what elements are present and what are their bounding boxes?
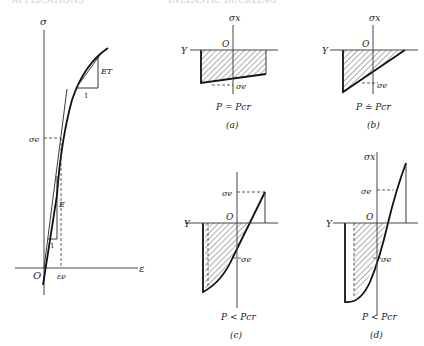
tangent-modulus-label: ET [100,67,113,76]
origin-label-b: O [362,39,370,49]
condition-d: P < Pcr [361,312,397,322]
caption-c: (c) [230,330,243,340]
condition-c: P < Pcr [220,312,256,322]
tangent-slope-unit: 1 [84,92,88,100]
y-label-d: Y [326,219,333,229]
condition-a: P = Pcr [215,102,251,112]
tangent-modulus-line [76,55,100,88]
sigma-x-label-a: σx [229,13,240,23]
caption-a: (a) [226,120,239,130]
caption-b: (b) [367,120,380,130]
stress-strain-plot: σ ε O E 1 ET 1 σe εe [15,16,144,295]
running-head-center: INELASTIC BUCKLING [168,0,276,5]
condition-b: P ≐ Pcr [355,102,391,112]
sigma-axis-label: σ [40,16,48,27]
origin-label-a: O [222,39,230,49]
sigma-x-label-d: σx [364,152,375,162]
sigma-x-label-b: σx [369,13,380,23]
sigma-e-label-a: σe [236,82,246,91]
origin-label-d: O [366,212,374,222]
y-label-c: Y [184,219,191,229]
running-head-left: APPLICATIONS [11,0,84,5]
sigma-e-top-label-c: σe [222,189,232,198]
running-header: APPLICATIONS INELASTIC BUCKLING [11,0,276,5]
sigma-e-label-c: σe [241,255,251,264]
origin-label-c: O [226,212,234,222]
y-label-a: Y [181,46,188,56]
panel-d: σx σe O Y σe P < Pcr (d) [326,152,418,340]
epsilon-e-label: εe [57,272,66,281]
sigma-e-label-b: σe [377,81,387,90]
sigma-e-top-label-d: σe [361,187,371,196]
caption-d: (d) [370,330,383,340]
figure: APPLICATIONS INELASTIC BUCKLING σ ε O E … [0,0,424,346]
panel-a: σx O Y σe P = Pcr (a) [181,13,278,130]
y-label-b: Y [322,46,329,56]
sigma-e-label-d: σe [381,255,391,264]
origin-label: O [33,270,41,281]
sigma-e-label: σe [29,135,39,144]
elastic-slope-unit: 1 [50,242,54,250]
panel-b: σx O Y σe P ≐ Pcr (b) [322,13,418,130]
epsilon-axis-label: ε [139,263,144,274]
panel-c: σe O Y σe P < Pcr (c) [184,172,278,340]
elastic-modulus-label: E [58,200,65,209]
elastic-tangent-line [44,89,67,268]
